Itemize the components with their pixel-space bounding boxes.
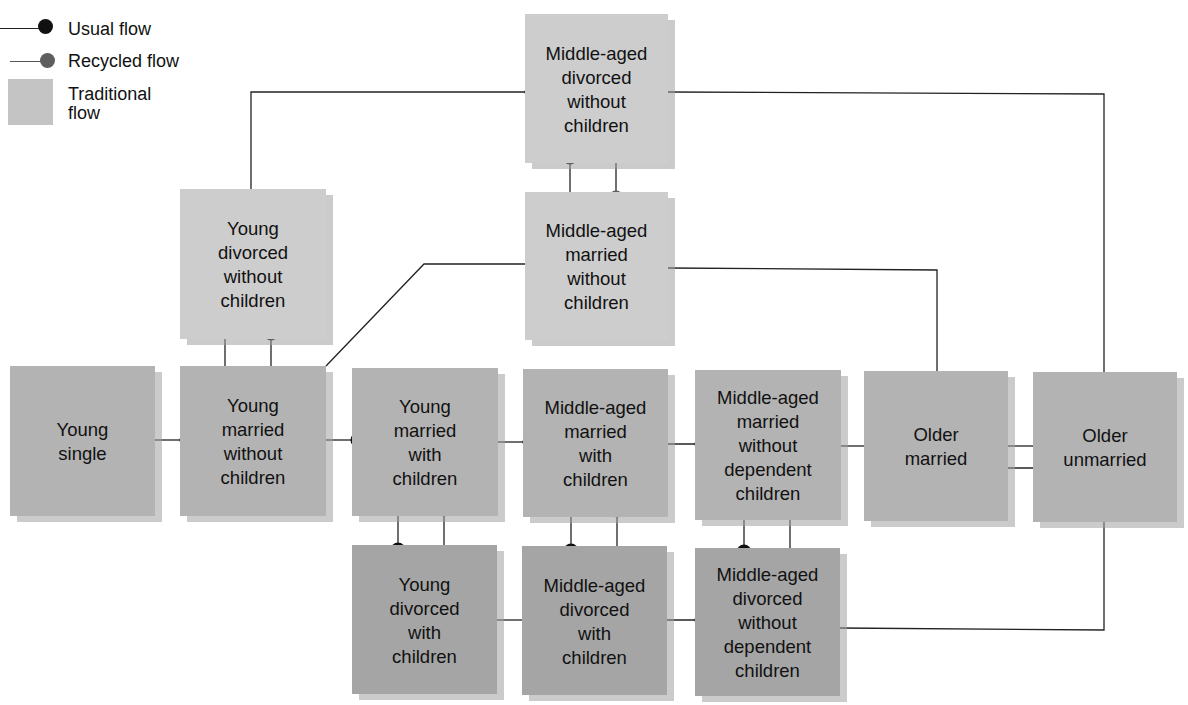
node-middle-aged-divorced-with-children: Middle-aged divorced with children	[522, 546, 667, 695]
node-label: Middle-aged divorced without dependent c…	[717, 561, 819, 683]
node-label: Older married	[905, 421, 968, 471]
legend-usual-line	[0, 28, 42, 29]
node-label: Older unmarried	[1063, 422, 1146, 472]
node-older-unmarried: Older unmarried	[1033, 372, 1177, 522]
legend-traditional-flow-label: Traditional flow	[68, 85, 151, 123]
node-label: Middle-aged married with children	[545, 394, 647, 492]
node-middle-aged-divorced-without-dependent-children: Middle-aged divorced without dependent c…	[695, 548, 840, 696]
node-label: Young married without children	[221, 392, 286, 490]
node-middle-aged-married-without-children: Middle-aged married without children	[525, 192, 668, 340]
node-middle-aged-married-with-children: Middle-aged married with children	[523, 369, 668, 517]
node-young-single: Young single	[10, 366, 155, 516]
legend-recycled-line	[10, 61, 42, 62]
traditional-flow-swatch	[8, 79, 53, 125]
legend-usual-flow-label: Usual flow	[68, 20, 151, 39]
node-young-married-with-children: Young married with children	[352, 368, 498, 516]
node-label: Middle-aged married without children	[546, 217, 648, 315]
node-label: Middle-aged divorced with children	[544, 572, 646, 670]
node-middle-aged-divorced-without-children: Middle-aged divorced without children	[525, 14, 668, 163]
node-young-divorced-with-children: Young divorced with children	[352, 545, 497, 694]
node-label: Middle-aged divorced without children	[546, 40, 648, 138]
node-young-married-without-children: Young married without children	[180, 366, 326, 516]
node-label: Young single	[57, 416, 109, 466]
recycled-flow-dot-icon	[40, 53, 55, 68]
node-young-divorced-without-children: Young divorced without children	[180, 189, 326, 339]
node-middle-aged-married-without-dependent-children: Middle-aged married without dependent ch…	[695, 370, 841, 520]
node-label: Young married with children	[393, 393, 458, 491]
legend-recycled-flow-label: Recycled flow	[68, 52, 179, 71]
node-older-married: Older married	[864, 371, 1008, 521]
node-label: Young divorced with children	[390, 571, 460, 669]
node-label: Middle-aged married without dependent ch…	[717, 384, 819, 506]
usual-flow-dot-icon	[38, 19, 53, 34]
node-label: Young divorced without children	[218, 215, 288, 313]
